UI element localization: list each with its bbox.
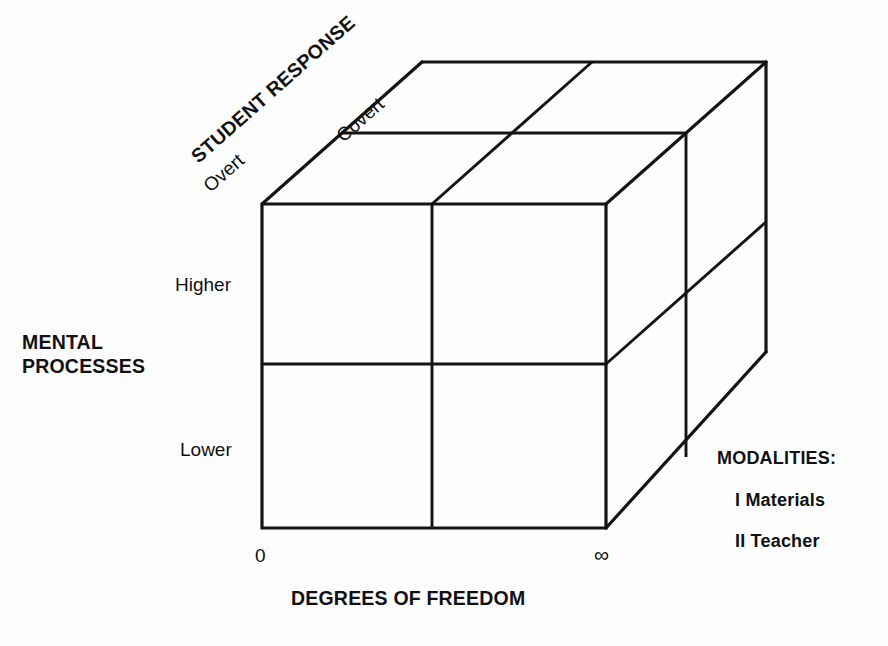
degrees-of-freedom-tick-infinity: ∞ <box>594 544 609 565</box>
degrees-of-freedom-tick-zero: 0 <box>255 546 266 565</box>
mental-processes-tick-lower: Lower <box>180 440 232 459</box>
mental-processes-tick-higher: Higher <box>175 275 231 294</box>
model-cube-figure: MENTAL PROCESSES Higher Lower 0 ∞ DEGREE… <box>0 0 888 646</box>
modalities-legend: MODALITIES: I Materials II Teacher <box>717 448 836 572</box>
mental-processes-axis-title: MENTAL PROCESSES <box>22 330 145 378</box>
cube-front-face <box>262 204 606 528</box>
mental-processes-title-line-2: PROCESSES <box>22 355 145 377</box>
modalities-legend-item-teacher: II Teacher <box>717 531 836 552</box>
modalities-legend-heading: MODALITIES: <box>717 448 836 469</box>
degrees-of-freedom-axis-title: DEGREES OF FREEDOM <box>291 589 525 609</box>
mental-processes-title-line-1: MENTAL <box>22 331 103 353</box>
modalities-legend-item-materials: I Materials <box>717 490 836 511</box>
